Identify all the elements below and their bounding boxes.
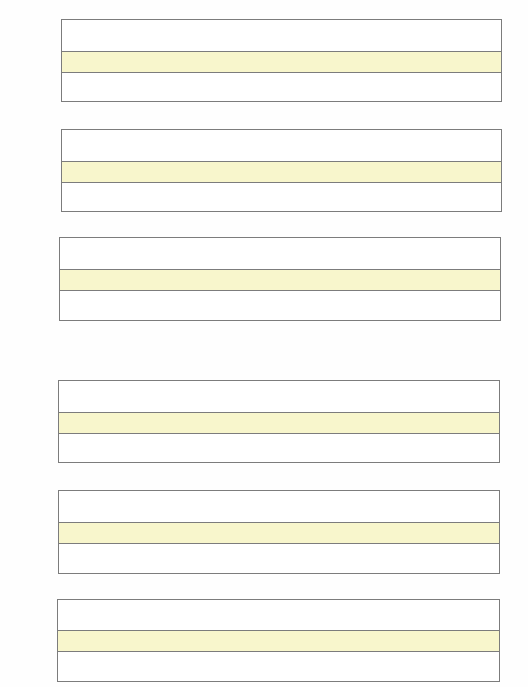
midline-guide-band (62, 51, 501, 73)
writing-box-2 (61, 129, 502, 212)
handwriting-worksheet (0, 0, 528, 687)
writing-box-4 (58, 380, 500, 463)
midline-guide-band (58, 630, 499, 652)
midline-guide-band (60, 269, 500, 291)
midline-guide-band (62, 161, 501, 183)
writing-box-1 (61, 19, 502, 102)
writing-box-5 (58, 490, 500, 574)
midline-guide-band (59, 412, 499, 434)
writing-box-3 (59, 237, 501, 321)
midline-guide-band (59, 522, 499, 544)
writing-box-6 (57, 599, 500, 682)
